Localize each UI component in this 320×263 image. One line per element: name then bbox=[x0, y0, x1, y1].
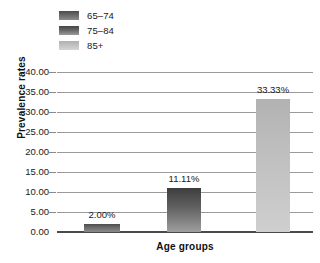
bar-value-85-plus: 33.33% bbox=[243, 85, 303, 95]
y-tick-label-0: 0.00 bbox=[3, 227, 49, 237]
legend-item-75-84[interactable]: 75–84 bbox=[59, 23, 179, 38]
y-tick-label-5: 5.00 bbox=[3, 207, 49, 217]
y-axis-tick-labels: 40.00 35.00 30.00 25.00 20.00 15.00 10.0… bbox=[0, 72, 49, 232]
bar-value-75-84: 11.11% bbox=[154, 174, 214, 184]
bar-75-84[interactable] bbox=[167, 188, 201, 232]
legend-swatch-65-74 bbox=[59, 11, 79, 20]
bar-chart-figure: 65–74 75–84 85+ Prevalence rates 40.00 3… bbox=[0, 0, 320, 263]
y-tick-label-15: 15.00 bbox=[3, 167, 49, 177]
plot-area: 2.00% 11.11% 33.33% bbox=[57, 72, 313, 232]
legend-swatch-85-plus bbox=[59, 41, 79, 50]
chart-legend: 65–74 75–84 85+ bbox=[59, 8, 179, 53]
legend-label-75-84: 75–84 bbox=[87, 26, 114, 36]
y-tick-mark-35 bbox=[49, 92, 56, 93]
y-tick-label-30: 30.00 bbox=[3, 107, 49, 117]
legend-swatch-75-84 bbox=[59, 26, 79, 35]
y-tick-label-40: 40.00 bbox=[3, 67, 49, 77]
legend-item-85-plus[interactable]: 85+ bbox=[59, 38, 179, 53]
y-tick-mark-40 bbox=[49, 72, 56, 73]
legend-item-65-74[interactable]: 65–74 bbox=[59, 8, 179, 23]
y-tick-mark-10 bbox=[49, 192, 56, 193]
x-axis-title: Age groups bbox=[57, 241, 313, 252]
y-tick-label-10: 10.00 bbox=[3, 187, 49, 197]
bar-value-65-74: 2.00% bbox=[72, 210, 132, 220]
y-tick-label-20: 20.00 bbox=[3, 147, 49, 157]
y-tick-mark-20 bbox=[49, 152, 56, 153]
legend-label-85-plus: 85+ bbox=[87, 41, 103, 51]
bar-65-74[interactable] bbox=[84, 224, 120, 232]
y-tick-mark-15 bbox=[49, 172, 56, 173]
y-tick-mark-30 bbox=[49, 112, 56, 113]
y-tick-mark-25 bbox=[49, 132, 56, 133]
bar-85-plus[interactable] bbox=[256, 99, 290, 232]
legend-label-65-74: 65–74 bbox=[87, 11, 114, 21]
y-tick-label-35: 35.00 bbox=[3, 87, 49, 97]
y-tick-label-25: 25.00 bbox=[3, 127, 49, 137]
y-tick-mark-5 bbox=[49, 212, 56, 213]
gridline-40 bbox=[57, 72, 313, 73]
